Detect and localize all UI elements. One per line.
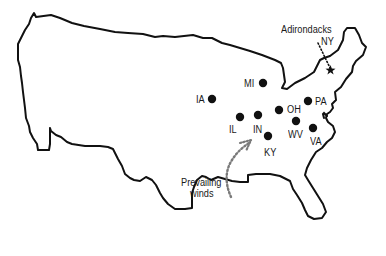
ny-label: NY [321,36,334,47]
prevailing-winds-arrow [227,143,249,197]
state-label-KY: KY [264,147,276,158]
dot-VA [309,124,317,132]
prevailing-winds-label-line2: winds [190,188,214,199]
state-label-IL: IL [229,124,237,135]
state-label-MI: MI [244,78,254,89]
dot-WV [292,117,300,125]
prevailing-winds-label-line1: Prevailing [181,177,221,188]
dot-KY [264,132,272,140]
dot-PA [304,97,312,105]
state-label-OH: OH [287,104,301,115]
adirondacks-label: Adirondacks [281,24,332,35]
star-icon [326,65,336,75]
dot-IL [236,113,244,121]
state-label-VA: VA [310,136,322,147]
state-label-IA: IA [196,94,205,105]
state-label-IN: IN [253,124,262,135]
dot-MI [259,79,267,87]
dot-IA [208,95,216,103]
dot-IN [254,111,262,119]
dot-OH [275,106,283,114]
state-label-WV: WV [288,129,303,140]
state-label-PA: PA [315,96,327,107]
